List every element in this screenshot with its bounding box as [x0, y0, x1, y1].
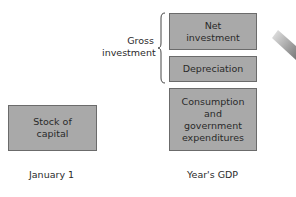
depreciation-box: Depreciation: [169, 56, 257, 82]
consumption-government-expenditures-box: Consumption and government expenditures: [169, 88, 257, 151]
curly-brace-icon: [157, 12, 167, 84]
net-investment-box: Net investment: [169, 13, 257, 50]
january-label: January 1: [29, 169, 74, 181]
stock-of-capital-box: Stock of capital: [8, 105, 97, 151]
gross-investment-label: Gross investment: [102, 35, 154, 59]
arrow-icon: [272, 30, 296, 60]
years-gdp-label: Year's GDP: [187, 169, 238, 181]
